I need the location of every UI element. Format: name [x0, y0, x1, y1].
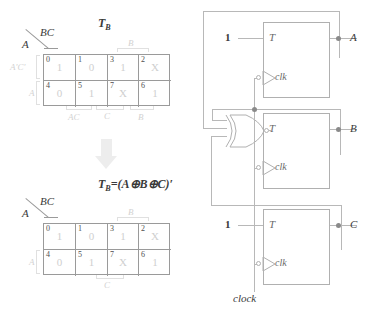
kmap-bottom-cell-0: 0 1 [44, 224, 76, 250]
wire-b-feedback-top [212, 109, 340, 110]
kmap-top-bracket-c [96, 106, 124, 110]
kmap-top-cell-1-value: 0 [76, 61, 107, 73]
kmap-top-label-c: C [104, 111, 110, 121]
flipflop-c-clk-label: clk [275, 257, 287, 268]
flipflop-a-input-constant: 1 [225, 31, 231, 43]
kmap-bottom-cell-1: 1 0 [76, 224, 108, 250]
flipflop-c-clk-triangle [262, 256, 276, 272]
down-arrow-head [95, 156, 117, 169]
flipflop-c-output-label: C [350, 218, 357, 230]
wire-a-feedback-right [339, 11, 340, 58]
kmap-bottom-cell-4-value: 0 [44, 256, 75, 268]
kmap-top-cell-5-value: 1 [76, 87, 107, 99]
wire-b-feedback-left [212, 109, 213, 120]
kmap-bottom-cell-3-value: 1 [108, 230, 138, 242]
wire-a-feedback-left [203, 11, 204, 128]
flipflop-b-output-label: B [350, 122, 357, 134]
kmap-bottom-cell-2: 2 X [139, 224, 171, 250]
kmap-top-cell-7-value: X [108, 87, 138, 99]
kmap-top-bracket-b-bottom [130, 106, 154, 110]
kmap-bottom-cell-1-value: 0 [76, 230, 107, 242]
kmap-bottom-cell-7: 7 X [108, 250, 139, 276]
flipflop-c-t-label: T [269, 218, 275, 230]
junction-dot-b [336, 127, 341, 132]
kmap-top-bracket-ac [66, 106, 92, 110]
kmap-top-title: TB [98, 16, 111, 32]
figure-root: TB BC A A'C' A B 0 1 1 0 3 1 [0, 0, 366, 313]
kmap-bottom-cell-0-value: 1 [44, 230, 75, 242]
kmap-top-cell-4: 4 0 [44, 81, 76, 107]
kmap-top-bracket-b [117, 48, 149, 52]
kmap-bottom-row2-bracket [36, 250, 40, 274]
flipflop-b-clk-label: clk [275, 161, 287, 172]
kmap-top-cell-3-value: 1 [108, 61, 138, 73]
kmap-top-label-ac: AC [68, 112, 80, 122]
kmap-bottom-cell-4: 4 0 [44, 250, 76, 276]
kmap-top-cell-4-value: 0 [44, 87, 75, 99]
kmap-top-cell-6: 6 1 [139, 81, 171, 107]
kmap-top-row2-bracket [36, 81, 40, 105]
kmap-bottom-cell-5: 5 1 [76, 250, 108, 276]
kmap-top-row2-group-label: A [29, 88, 35, 98]
junction-dot-c [336, 223, 341, 228]
clock-label: clock [233, 292, 256, 304]
junction-dot-clock [252, 107, 257, 112]
kmap-bottom-cell-6-value: 1 [139, 256, 171, 268]
kmap-bottom-bracket-c [96, 275, 124, 279]
kmap-bottom-row-header: A [22, 207, 29, 219]
wire-c-feedback-left [211, 136, 212, 205]
flipflop-c-input-constant: 1 [225, 218, 231, 230]
wire-clock-to-b [254, 168, 257, 169]
kmap-top-cell-2-value: X [139, 61, 171, 73]
kmap-top-row1-group-label: A'C' [10, 62, 25, 72]
flipflop-a-output-label: A [350, 31, 357, 43]
wire-xnor-to-b-t [269, 130, 271, 131]
kmap-top-row1-bracket [36, 55, 40, 79]
kmap-bottom-cell-2-value: X [139, 230, 171, 242]
wire-b-feedback-right [340, 109, 341, 155]
junction-dot-a [336, 36, 341, 41]
kmap-top-cell-0: 0 1 [44, 55, 76, 81]
wire-a-feedback-top [203, 11, 339, 12]
flipflop-b-clk-triangle [262, 160, 276, 176]
wire-c-feedback-bottom [211, 205, 341, 206]
kmap-top-cell-3: 3 1 [108, 55, 139, 81]
kmap-top-cell-0-value: 1 [44, 61, 75, 73]
wire-const1-to-c-t [238, 225, 263, 226]
wire-c-feedback-right [341, 205, 342, 250]
kmap-top-cell-7: 7 X [108, 81, 139, 107]
kmap-top-col-header: BC [40, 26, 54, 38]
kmap-bottom-cell-7-value: X [108, 256, 138, 268]
kmap-top-cell-2: 2 X [139, 55, 171, 81]
kmap-top-cell-6-value: 1 [139, 87, 171, 99]
kmap-bottom-cell-5-value: 1 [76, 256, 107, 268]
flipflop-a-t-label: T [269, 31, 275, 43]
down-arrow-shaft [101, 139, 112, 157]
kmap-top-row-header: A [22, 38, 29, 50]
kmap-bottom-cell-3: 3 1 [108, 224, 139, 250]
kmap-bottom-group-top-label: B [128, 207, 134, 217]
flipflop-a-clk-triangle [262, 70, 276, 86]
wire-const1-to-a-t [238, 38, 263, 39]
flipflop-a-clk-label: clk [275, 71, 287, 82]
kmap-bottom-col-header: BC [40, 195, 54, 207]
kmap-bottom-grid: 0 1 1 0 3 1 2 X 4 0 5 1 [43, 223, 170, 275]
kmap-bottom-bracket-b [117, 217, 149, 221]
kmap-top-group-top-label: B [128, 38, 134, 48]
kmap-top-grid: 0 1 1 0 3 1 2 X 4 0 5 1 [43, 54, 170, 106]
kmap-bottom-row2-group-label: A [29, 257, 35, 267]
kmap-bottom-title: TB=(A⊕B⊕C)′ [98, 177, 173, 193]
kmap-top-cell-1: 1 0 [76, 55, 108, 81]
kmap-bottom-cell-6: 6 1 [139, 250, 171, 276]
wire-clock-to-c [254, 264, 257, 265]
wire-clock-to-a [254, 78, 257, 79]
kmap-top-label-b: B [138, 112, 144, 122]
kmap-top-cell-5: 5 1 [76, 81, 108, 107]
kmap-bottom-label-c: C [104, 280, 110, 290]
kmap-bottom-header-underline [44, 217, 58, 218]
kmap-top-header-underline [44, 48, 58, 49]
